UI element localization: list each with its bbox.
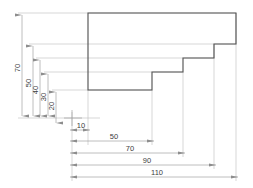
dim-label-h-70: 70	[126, 144, 134, 153]
dim-label-h-110: 110	[151, 168, 163, 177]
dim-label-v-70: 70	[13, 64, 22, 72]
dim-label-h-10: 10	[77, 121, 85, 130]
dim-label-h-90: 90	[143, 156, 151, 165]
technical-drawing-canvas: 70 50 40 30 20 10 50 70 90 110	[0, 0, 253, 188]
horizontal-dimension-labels: 10 50 70 90 110	[77, 121, 163, 177]
drawing-svg: 70 50 40 30 20 10 50 70 90 110	[0, 0, 253, 188]
extension-lines	[18, 13, 236, 181]
dim-label-v-20: 20	[47, 102, 56, 110]
vertical-dimension-labels: 70 50 40 30 20	[13, 64, 56, 110]
dim-label-h-50: 50	[110, 132, 118, 141]
dim-label-v-30: 30	[39, 93, 48, 101]
